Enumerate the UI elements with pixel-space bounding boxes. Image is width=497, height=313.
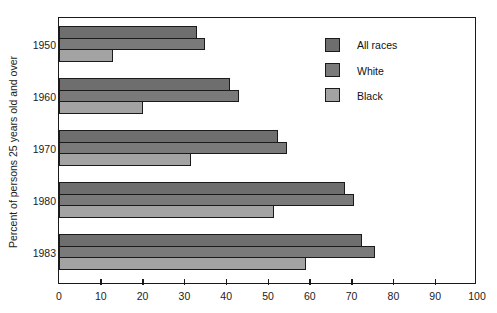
x-tick-label: 10 <box>95 290 107 302</box>
x-tick-mark <box>226 279 228 285</box>
x-tick-mark <box>268 279 270 285</box>
x-tick-label: 60 <box>304 290 316 302</box>
legend-swatch-all-races <box>325 38 340 52</box>
x-tick-mark <box>142 279 144 285</box>
x-tick-mark <box>100 279 102 285</box>
bar-1983-black <box>59 257 306 270</box>
x-tick-label: 70 <box>346 290 358 302</box>
legend-swatch-black <box>325 88 340 102</box>
y-tick-label: 1970 <box>22 143 56 155</box>
x-tick-mark <box>309 279 311 285</box>
x-tick-label: 100 <box>468 290 486 302</box>
x-tick-mark <box>435 279 437 285</box>
y-tick-label: 1950 <box>22 39 56 51</box>
x-tick-label: 50 <box>262 290 274 302</box>
bar-1970-black <box>59 153 191 166</box>
x-tick-label: 40 <box>220 290 232 302</box>
x-tick-mark <box>184 279 186 285</box>
x-tick-mark <box>393 279 395 285</box>
x-tick-label: 20 <box>137 290 149 302</box>
legend-swatch-white <box>325 63 340 77</box>
bar-1950-black <box>59 49 113 62</box>
bar-1980-black <box>59 205 274 218</box>
legend-label-all-races: All races <box>357 39 397 51</box>
x-tick-label: 30 <box>179 290 191 302</box>
legend-label-white: White <box>357 65 384 77</box>
y-axis-title: Percent of persons 25 years old and over <box>7 56 19 248</box>
legend-label-black: Black <box>357 90 383 102</box>
bar-1960-black <box>59 101 143 114</box>
y-tick-label: 1983 <box>22 247 56 259</box>
y-tick-label: 1960 <box>22 91 56 103</box>
x-tick-label: 80 <box>388 290 400 302</box>
x-tick-mark <box>351 279 353 285</box>
x-tick-label: 0 <box>56 290 62 302</box>
y-tick-label: 1980 <box>22 195 56 207</box>
x-tick-label: 90 <box>429 290 441 302</box>
